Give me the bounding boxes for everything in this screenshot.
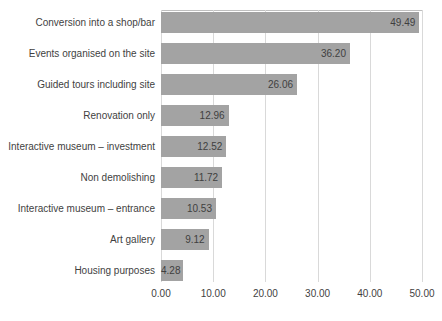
bar-value-label: 4.28 (161, 260, 183, 281)
x-tick-label: 10.00 (183, 288, 243, 299)
bar-row: 26.06 (161, 74, 422, 95)
bar-row: 10.53 (161, 198, 422, 219)
bar-row: 4.28 (161, 260, 422, 281)
category-label: Renovation only (5, 105, 155, 126)
bar-row: 11.72 (161, 167, 422, 188)
gridline-50.00 (422, 10, 423, 282)
bar-row: 12.96 (161, 105, 422, 126)
x-tick-label: 50.00 (392, 288, 442, 299)
bar-value-label: 36.20 (161, 43, 350, 64)
category-label: Events organised on the site (5, 43, 155, 64)
x-tick-label: 40.00 (340, 288, 400, 299)
category-label: Interactive museum – entrance (5, 198, 155, 219)
bar-value-label: 11.72 (161, 167, 222, 188)
x-tick-label: 30.00 (288, 288, 348, 299)
bar-value-label: 12.96 (161, 105, 229, 126)
x-tick-label: 0.00 (131, 288, 191, 299)
category-label: Conversion into a shop/bar (5, 12, 155, 33)
bar-value-label: 12.52 (161, 136, 226, 157)
category-label: Housing purposes (5, 260, 155, 281)
category-label: Art gallery (5, 229, 155, 250)
category-label: Interactive museum – investment (5, 136, 155, 157)
bar-row: 9.12 (161, 229, 422, 250)
plot-area: 49.4936.2026.0612.9612.5211.7210.539.124… (161, 10, 422, 282)
bar-value-label: 49.49 (161, 12, 419, 33)
bar-value-label: 9.12 (161, 229, 209, 250)
bar-row: 12.52 (161, 136, 422, 157)
category-label: Non demolishing (5, 167, 155, 188)
bar-chart: 49.4936.2026.0612.9612.5211.7210.539.124… (0, 0, 442, 321)
x-tick-label: 20.00 (235, 288, 295, 299)
bar-value-label: 26.06 (161, 74, 297, 95)
category-label: Guided tours including site (5, 74, 155, 95)
bar-value-label: 10.53 (161, 198, 216, 219)
bar-row: 49.49 (161, 12, 422, 33)
bar-row: 36.20 (161, 43, 422, 64)
